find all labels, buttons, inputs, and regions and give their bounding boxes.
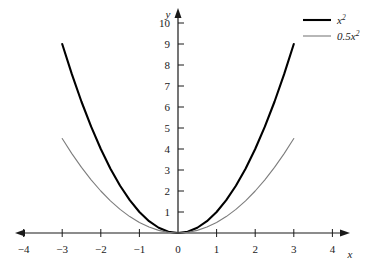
y-tick-label: 5 bbox=[165, 122, 171, 134]
y-tick-label: 7 bbox=[165, 80, 171, 92]
x-axis-label: x bbox=[347, 248, 353, 260]
y-tick-label: 1 bbox=[165, 206, 171, 218]
x-tick-label: −3 bbox=[56, 243, 68, 255]
y-tick-label: 8 bbox=[165, 59, 171, 71]
x-tick-label: 2 bbox=[252, 243, 258, 255]
cartesian-plot: −4−3−2−101234 12345678910 x y x20.5x2 bbox=[0, 0, 365, 273]
y-tick-label: 9 bbox=[165, 38, 171, 50]
y-axis-label: y bbox=[165, 8, 171, 20]
x-tick-label: −4 bbox=[18, 243, 30, 255]
x-tick-label: −2 bbox=[95, 243, 107, 255]
x-tick-label: 0 bbox=[175, 243, 181, 255]
chart-container: −4−3−2−101234 12345678910 x y x20.5x2 bbox=[0, 0, 365, 273]
y-tick-label: 2 bbox=[165, 185, 171, 197]
y-tick-label: 3 bbox=[165, 164, 171, 176]
x-tick-label: 1 bbox=[214, 243, 220, 255]
y-tick-label: 6 bbox=[165, 101, 171, 113]
x-tick-label: 3 bbox=[291, 243, 297, 255]
x-tick-label: 4 bbox=[330, 243, 336, 255]
y-tick-label: 4 bbox=[165, 143, 171, 155]
x-tick-label: −1 bbox=[134, 243, 146, 255]
